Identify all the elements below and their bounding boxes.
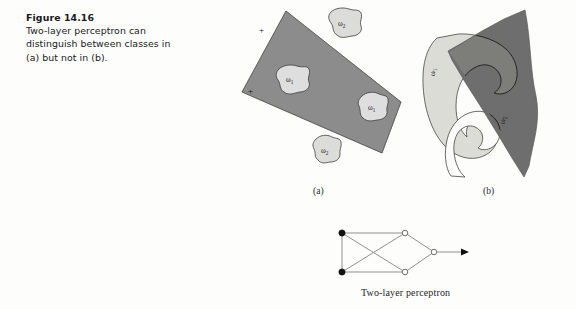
class-blob-omega1-right: ω1 [358,92,388,121]
subfigure-b-group: ω1 ω2 [423,10,538,177]
subfigure-b-label: (b) [483,186,494,196]
perceptron-network [339,230,469,275]
subfigure-a-label: (a) [313,186,324,196]
output-arrow-icon [461,249,469,256]
decision-region-a [242,11,401,153]
network-caption: Two-layer perceptron [361,287,450,298]
input-node-2 [339,269,345,275]
class-blob-omega2-bottom: ω2 [313,135,341,163]
subfigure-a-group: + + ω1 ω1 ω2 ω2 [242,8,401,163]
input-node-1 [339,230,345,236]
figure-page: Figure 14.16 Two-layer perceptron can di… [0,0,576,309]
network-edges [342,233,462,272]
plus-marker-lower: + [248,86,253,96]
output-node [431,249,437,255]
class-blob-omega2-top: ω2 [329,8,362,37]
plus-marker-upper: + [259,25,264,35]
hidden-node-1 [402,230,408,236]
hidden-node-2 [402,269,408,275]
figure-illustration: + + ω1 ω1 ω2 ω2 [0,0,576,309]
